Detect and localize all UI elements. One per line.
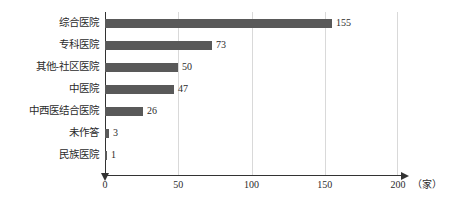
x-tick-label: 0 (85, 178, 125, 192)
category-label: 综合医院 (0, 12, 99, 34)
category-label: 中西医结合医院 (0, 100, 99, 122)
x-tick-label: 100 (232, 178, 272, 192)
bar-row: 其他-社区医院 50 (0, 56, 463, 78)
bar (105, 107, 143, 116)
category-label: 未作答 (0, 122, 99, 144)
bar-value-label: 73 (216, 34, 226, 56)
bar-row: 中西医结合医院 26 (0, 100, 463, 122)
bar (105, 151, 107, 160)
x-axis-unit-label: （家） (412, 178, 442, 192)
bar (105, 85, 174, 94)
bar-value-label: 1 (111, 144, 116, 166)
bar-row: 中医院 47 (0, 78, 463, 100)
category-label: 中医院 (0, 78, 99, 100)
x-axis-line (105, 175, 402, 176)
bar (105, 19, 332, 28)
bar-value-label: 26 (147, 100, 157, 122)
bar-chart: 综合医院 155 专科医院 73 其他-社区医院 50 中医院 47 中西医结合… (0, 0, 463, 208)
category-label: 专科医院 (0, 34, 99, 56)
category-label: 民族医院 (0, 144, 99, 166)
bar (105, 41, 212, 50)
x-tick-label: 50 (158, 178, 198, 192)
bar-row: 专科医院 73 (0, 34, 463, 56)
x-tick-label: 150 (305, 178, 345, 192)
bar-value-label: 155 (336, 12, 351, 34)
bar (105, 129, 109, 138)
bar-row: 未作答 3 (0, 122, 463, 144)
bar-row: 综合医院 155 (0, 12, 463, 34)
bar (105, 63, 178, 72)
bar-value-label: 3 (113, 122, 118, 144)
category-label: 其他-社区医院 (0, 56, 99, 78)
bar-value-label: 47 (178, 78, 188, 100)
bar-row: 民族医院 1 (0, 144, 463, 166)
bar-value-label: 50 (182, 56, 192, 78)
